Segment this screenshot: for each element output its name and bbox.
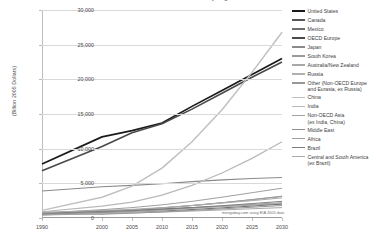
legend-item[interactable]: OECD Europe: [292, 35, 377, 42]
x-tickmark: [222, 218, 223, 221]
y-tick-label: 30,000: [34, 7, 94, 13]
x-tick-label: 2015: [186, 224, 198, 230]
legend-label: South Korea: [308, 53, 336, 59]
legend-label: Other (Non-OECD Europe and Eurasia, ex R…: [308, 80, 367, 92]
legend-label: Russia: [308, 71, 324, 77]
legend-swatch: [292, 129, 305, 130]
x-tick-label: 2010: [156, 224, 168, 230]
legend-swatch: [292, 156, 305, 157]
y-tick-label: 10,000: [34, 146, 94, 152]
legend-label: Canada: [308, 17, 326, 23]
legend-swatch: [292, 10, 305, 12]
legend-label: India: [308, 103, 319, 109]
x-tick-label: 2020: [216, 224, 228, 230]
y-axis-title: (Billion 2005 Dollars): [11, 51, 17, 131]
y-tick-label: 25,000: [34, 42, 94, 48]
legend-swatch: [292, 55, 305, 56]
legend-label: Brazil: [308, 145, 321, 151]
legend-label: Japan: [308, 44, 322, 50]
legend-swatch: [292, 28, 305, 29]
legend-item[interactable]: Middle East: [292, 127, 377, 134]
legend-item[interactable]: South Korea: [292, 53, 377, 60]
y-tick-label: 0: [34, 215, 94, 221]
legend-swatch: [292, 46, 305, 47]
source-credit: mongabay.com using EIA 2005 data: [222, 210, 284, 215]
legend-swatch: [292, 115, 305, 116]
legend-label: Mexico: [308, 26, 324, 32]
chart-root: Gross Domestic Product by Region (Billio…: [0, 0, 377, 241]
legend-label: OECD Europe: [308, 35, 341, 41]
legend-swatch: [292, 106, 305, 107]
y-tick-label: 20,000: [34, 76, 94, 82]
legend-item[interactable]: Canada: [292, 17, 377, 24]
legend-item[interactable]: Non-OECD Asia (ex India, China): [292, 112, 377, 124]
legend-swatch: [292, 82, 305, 83]
chart-title: Gross Domestic Product by Region: [0, 0, 377, 1]
legend-item[interactable]: Japan: [292, 44, 377, 51]
legend-item[interactable]: Mexico: [292, 26, 377, 33]
legend-item[interactable]: Australia/New Zealand: [292, 62, 377, 69]
legend-item[interactable]: Brazil: [292, 145, 377, 152]
x-tick-label: 2005: [126, 224, 138, 230]
x-tick-label: 2030: [276, 224, 288, 230]
x-tickmark: [162, 218, 163, 221]
legend-item[interactable]: Africa: [292, 136, 377, 143]
legend-label: Australia/New Zealand: [308, 62, 359, 68]
x-tickmark: [252, 218, 253, 221]
legend-item[interactable]: China: [292, 94, 377, 101]
legend-item[interactable]: Central and South America (ex Brazil): [292, 154, 377, 166]
x-tickmark: [132, 218, 133, 221]
legend-swatch: [292, 97, 305, 99]
legend-swatch: [292, 147, 305, 148]
y-tick-label: 5,000: [34, 180, 94, 186]
legend-label: Non-OECD Asia (ex India, China): [308, 112, 345, 124]
x-tickmark: [102, 218, 103, 221]
x-tick-label: 2000: [96, 224, 108, 230]
legend-label: Africa: [308, 136, 321, 142]
legend-item[interactable]: United States: [292, 8, 377, 15]
x-tickmark: [282, 218, 283, 221]
legend-swatch: [292, 73, 305, 74]
legend-label: China: [308, 94, 321, 100]
legend-item[interactable]: India: [292, 103, 377, 110]
legend-label: Middle East: [308, 127, 335, 133]
legend-label: United States: [308, 8, 339, 14]
x-tick-label: 2025: [246, 224, 258, 230]
chart-legend: United StatesCanadaMexicoOECD EuropeJapa…: [292, 8, 377, 168]
legend-swatch: [292, 138, 305, 139]
legend-swatch: [292, 19, 305, 20]
legend-swatch: [292, 64, 305, 65]
y-tick-label: 15,000: [34, 111, 94, 117]
legend-item[interactable]: Other (Non-OECD Europe and Eurasia, ex R…: [292, 80, 377, 92]
legend-label: Central and South America (ex Brazil): [308, 154, 369, 166]
legend-item[interactable]: Russia: [292, 71, 377, 78]
x-tick-label: 1990: [36, 224, 48, 230]
x-tickmark: [192, 218, 193, 221]
legend-swatch: [292, 37, 305, 39]
